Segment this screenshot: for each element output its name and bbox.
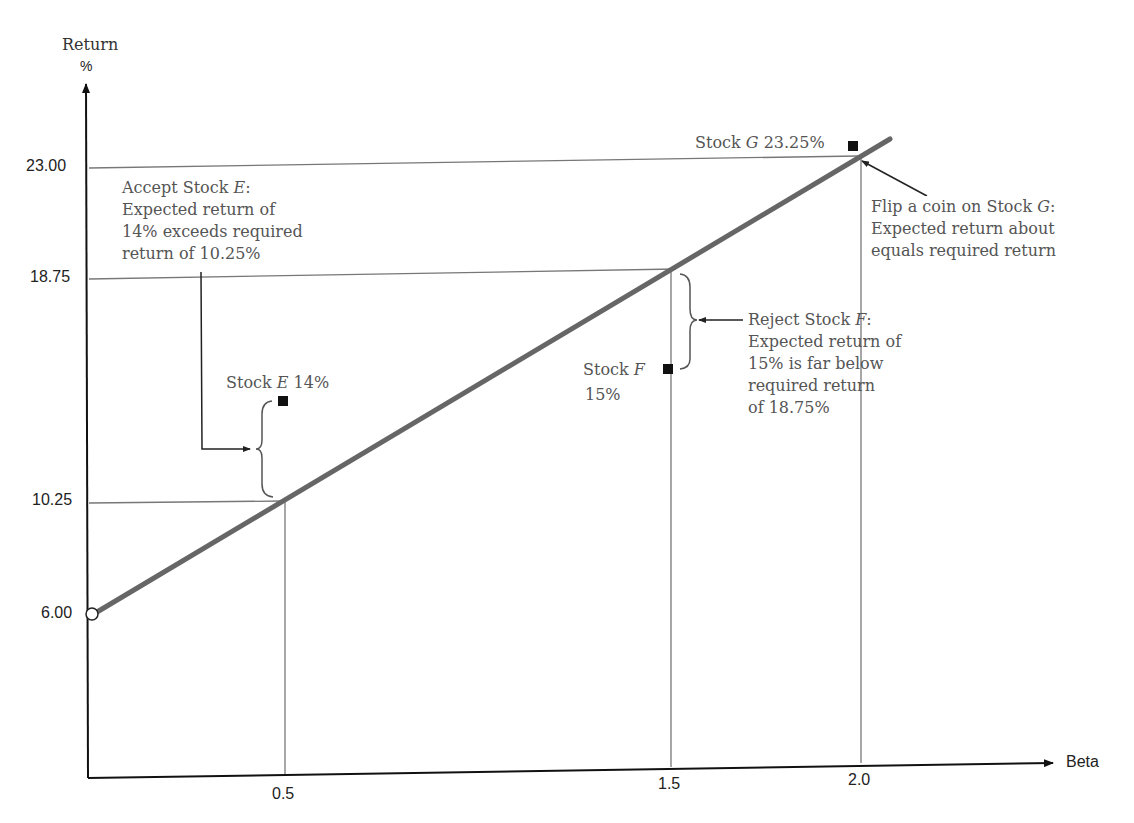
x-tick-05: 0.5 <box>272 785 294 803</box>
stock-f-marker <box>663 364 673 374</box>
x-axis-title: Beta <box>1066 753 1099 771</box>
y-tick-23: 23.00 <box>26 157 66 175</box>
y-axis-title: Return <box>62 35 118 54</box>
stock-e-label: Stock E 14% <box>226 372 329 394</box>
accept-connector-arrow <box>201 272 250 449</box>
y-axis-unit: % <box>80 58 92 74</box>
y-tick-1875: 18.75 <box>30 268 70 286</box>
stock-f-label: Stock F <box>583 359 645 381</box>
flip-coin-stock-g-note: Flip a coin on Stock G: Expected return … <box>871 196 1056 262</box>
stock-f-value: 15% <box>585 384 621 406</box>
sml-chart <box>0 0 1134 823</box>
stock-g-label: Stock G 23.25% <box>695 132 825 154</box>
brace-e <box>256 401 273 497</box>
brace-f <box>680 274 697 369</box>
x-axis <box>88 763 1053 778</box>
y-axis <box>86 84 88 778</box>
y-tick-6: 6.00 <box>41 604 72 622</box>
flip-connector-arrow <box>862 161 927 196</box>
reject-stock-f-note: Reject Stock F: Expected return of 15% i… <box>748 309 901 419</box>
sml-intercept-marker <box>86 608 98 620</box>
x-tick-15: 1.5 <box>658 775 680 793</box>
stock-e-marker <box>278 396 288 406</box>
x-tick-20: 2.0 <box>848 771 870 789</box>
accept-stock-e-note: Accept Stock E: Expected return of 14% e… <box>122 177 303 265</box>
stock-g-marker <box>848 141 858 151</box>
y-tick-1025: 10.25 <box>32 491 72 509</box>
